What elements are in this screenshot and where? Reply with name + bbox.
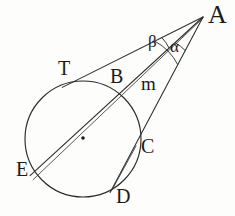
chord-segment-DC	[112, 146, 136, 190]
circle-center-dot	[81, 136, 85, 140]
geometry-figure: A T B C D E m β α	[0, 0, 235, 216]
label-point-a: A	[208, 2, 227, 28]
label-point-t: T	[58, 58, 70, 78]
label-point-e: E	[16, 159, 28, 179]
label-point-d: D	[116, 186, 130, 206]
diagram-canvas	[0, 0, 235, 216]
label-point-c: C	[141, 136, 154, 156]
label-angle-alpha: α	[170, 38, 179, 55]
tangent-line-AT	[62, 17, 203, 87]
label-segment-m: m	[141, 74, 156, 93]
label-point-b: B	[110, 66, 123, 86]
label-angle-beta: β	[148, 33, 157, 50]
